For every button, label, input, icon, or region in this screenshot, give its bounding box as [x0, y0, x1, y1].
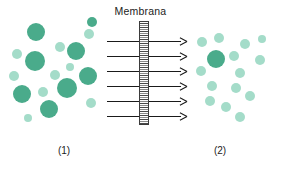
particle-compartment-2-small: [197, 37, 207, 47]
particle-compartment-2-large: [207, 50, 225, 68]
arrow-head-icon: [179, 37, 188, 46]
particle-compartment-2-small: [240, 39, 250, 49]
membrane-title: Membrana: [0, 5, 281, 17]
particle-compartment-1-small: [50, 70, 60, 80]
particle-compartment-1-small: [55, 42, 65, 52]
particle-compartment-1-small: [12, 49, 22, 59]
membrane-barrier: [139, 21, 149, 125]
particle-compartment-2-small: [258, 35, 266, 43]
particle-compartment-1-small: [38, 87, 48, 97]
particle-compartment-2-small: [221, 102, 231, 112]
compartment-2-label: (2): [200, 145, 240, 156]
particle-compartment-1-small: [66, 63, 74, 71]
arrow-head-icon: [179, 97, 188, 106]
particle-compartment-2-small: [229, 51, 239, 61]
particle-compartment-2-small: [196, 66, 206, 76]
particle-compartment-1-large: [87, 17, 97, 27]
particle-compartment-2-small: [235, 112, 245, 122]
compartment-1-label: (1): [44, 145, 84, 156]
arrow-head-icon: [179, 52, 188, 61]
arrow-head-icon: [179, 67, 188, 76]
particle-compartment-2-small: [205, 96, 215, 106]
particle-compartment-2-small: [235, 68, 245, 78]
particle-compartment-1-small: [9, 71, 19, 81]
particle-compartment-1-small: [84, 29, 94, 39]
particle-compartment-1-large: [25, 51, 45, 71]
particle-compartment-1-small: [86, 98, 96, 108]
particle-compartment-2-small: [214, 33, 224, 43]
particle-compartment-1-large: [40, 100, 58, 118]
particle-compartment-2-small: [255, 55, 265, 65]
membrane-diffusion-diagram: Membrana (1) (2): [0, 0, 281, 169]
particle-compartment-2-small: [245, 91, 255, 101]
particle-compartment-2-small: [207, 81, 217, 91]
arrow-head-icon: [179, 112, 188, 121]
arrow-head-icon: [179, 82, 188, 91]
particle-compartment-1-large: [57, 78, 77, 98]
particle-compartment-1-large: [27, 23, 45, 41]
particle-compartment-1-large: [13, 85, 31, 103]
particle-compartment-1-small: [24, 114, 32, 122]
particle-compartment-1-large: [67, 42, 85, 60]
particle-compartment-2-small: [231, 83, 241, 93]
particle-compartment-1-large: [79, 67, 97, 85]
